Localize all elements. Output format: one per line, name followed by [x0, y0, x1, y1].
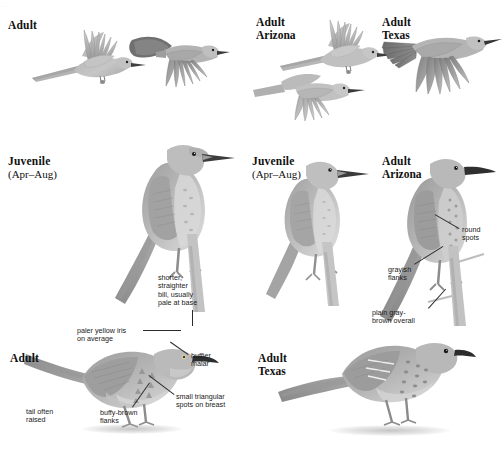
cropped-header-text: … — [0, 0, 503, 12]
caption-line1: Adult — [258, 352, 287, 364]
ground-shadow-adult-texas — [330, 425, 450, 436]
caption-line1: Juvenile — [252, 155, 295, 167]
caption-juvenile-left: Juvenile (Apr–Aug) — [8, 155, 57, 180]
caption-line2: Arizona — [382, 168, 422, 181]
caption-line2: Texas — [382, 29, 411, 42]
caption-adult-arizona-flight: Adult Arizona — [256, 16, 296, 41]
bird-perch-adult-texas — [268, 330, 476, 434]
caption-adult-arizona-perch: Adult Arizona — [382, 155, 422, 180]
bird-flight-adult-right — [126, 30, 230, 92]
annotation-small-spots: small triangular spots on breast — [176, 393, 225, 410]
caption-adult-texas-flight: Adult Texas — [382, 16, 411, 41]
annotation-buffy-flanks: buffy-brown flanks — [100, 409, 137, 426]
caption-line2: (Apr–Aug) — [8, 168, 57, 181]
annotation-tail-raised: tail often raised — [26, 408, 53, 425]
caption-adult-texas-perch: Adult Texas — [258, 352, 287, 377]
caption-line2: Texas — [258, 365, 287, 378]
annotation-round-spots: round spots — [462, 226, 480, 243]
leader-shorter-bill — [192, 310, 193, 326]
annotation-paler-iris: paler yellow iris on average — [77, 327, 126, 344]
bird-flight-arizona-lower — [253, 66, 369, 122]
leader-paler-iris — [143, 330, 181, 331]
annotation-shorter-bill: shorter, straighter bill, usually pale a… — [158, 274, 197, 308]
caption-line1: Adult — [10, 352, 39, 364]
caption-line1: Adult — [382, 16, 411, 28]
caption-adult-perch-left: Adult — [10, 352, 39, 365]
annotation-grayish-flanks: grayish flanks — [388, 266, 411, 283]
caption-line1: Juvenile — [8, 155, 51, 167]
caption-line1: Adult — [256, 16, 285, 28]
caption-line2: Arizona — [256, 29, 296, 42]
caption-adult-flight-left: Adult — [8, 19, 37, 32]
caption-line1: Adult — [382, 155, 411, 167]
caption-juvenile-mid: Juvenile (Apr–Aug) — [252, 155, 301, 180]
annotation-buffier-malar: buffier malar — [191, 352, 211, 369]
caption-line1: Adult — [8, 19, 37, 31]
caption-line2: (Apr–Aug) — [252, 168, 301, 181]
field-guide-plate: … — [0, 0, 503, 450]
annotation-plain-gray: plain gray- brown overall — [372, 309, 415, 326]
